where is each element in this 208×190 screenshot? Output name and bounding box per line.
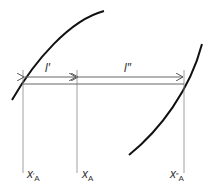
- x-a-prime-sub: A: [34, 174, 39, 183]
- label-x-a: xA: [82, 168, 93, 183]
- label-l-double-prime: l″: [124, 62, 131, 74]
- left-curve: [12, 11, 104, 100]
- right-curve: [129, 44, 202, 155]
- x-a-sub: A: [88, 174, 93, 183]
- label-x-a-prime: x′A: [27, 168, 40, 183]
- label-x-a-double-prime: x″A: [170, 168, 184, 183]
- diagram-canvas: [0, 0, 208, 190]
- x-a-double-prime-sub: A: [178, 174, 183, 183]
- label-l-prime: l′: [45, 62, 50, 74]
